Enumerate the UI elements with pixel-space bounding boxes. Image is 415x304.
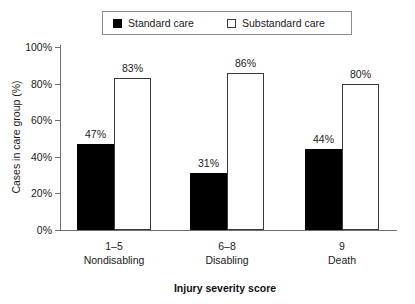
bar-value-label: 44% — [313, 133, 334, 145]
bar-value-label: 80% — [350, 68, 371, 80]
x-axis-category-label: 9Death — [328, 239, 356, 267]
bar-value-label: 47% — [85, 128, 106, 140]
hollow-square-icon — [227, 19, 236, 28]
x-axis-title: Injury severity score — [60, 282, 390, 294]
bar-value-label: 86% — [235, 57, 256, 69]
legend-item-standard-care: Standard care — [113, 12, 194, 34]
x-axis-category-description: Disabling — [205, 253, 248, 267]
bar-standard-care-3 — [305, 149, 342, 230]
chart-legend: Standard care Substandard care — [102, 11, 352, 35]
x-axis-line — [60, 230, 397, 231]
bar-value-label: 31% — [198, 157, 219, 169]
y-axis-tick — [55, 84, 60, 85]
y-axis-tick — [55, 230, 60, 231]
y-axis-tick — [55, 47, 60, 48]
bar-substandard-care-2 — [227, 73, 264, 230]
y-axis-tick-label: 60% — [31, 114, 52, 126]
legend-item-substandard-care: Substandard care — [227, 12, 325, 34]
x-axis-category-description: Death — [328, 253, 356, 267]
bar-standard-care-1 — [77, 144, 114, 230]
x-axis-category-description: Nondisabling — [84, 253, 145, 267]
bar-substandard-care-1 — [114, 78, 151, 230]
y-axis-tick-label: 0% — [37, 224, 52, 236]
y-axis-tick — [55, 157, 60, 158]
x-axis-category-label: 6–8Disabling — [205, 239, 248, 267]
legend-label-substandard-care: Substandard care — [242, 18, 325, 29]
plot-area: 0%20%40%60%80%100%47%83%1–5Nondisabling3… — [60, 47, 397, 230]
filled-square-icon — [113, 19, 122, 28]
bar-standard-care-2 — [190, 173, 227, 230]
y-axis-tick-label: 100% — [25, 41, 52, 53]
y-axis-title: Cases in care group (%) — [9, 46, 23, 229]
y-axis-tick — [55, 120, 60, 121]
bar-chart-figure: Standard care Substandard care Cases in … — [0, 0, 415, 304]
y-axis-tick — [55, 193, 60, 194]
y-axis-tick-label: 80% — [31, 78, 52, 90]
x-axis-category-score: 1–5 — [84, 239, 145, 253]
legend-label-standard-care: Standard care — [128, 18, 194, 29]
y-axis-tick-label: 20% — [31, 187, 52, 199]
x-axis-category-score: 9 — [328, 239, 356, 253]
y-axis-tick-label: 40% — [31, 151, 52, 163]
bar-substandard-care-3 — [342, 84, 379, 230]
x-axis-category-score: 6–8 — [205, 239, 248, 253]
bar-value-label: 83% — [122, 62, 143, 74]
x-axis-category-label: 1–5Nondisabling — [84, 239, 145, 267]
